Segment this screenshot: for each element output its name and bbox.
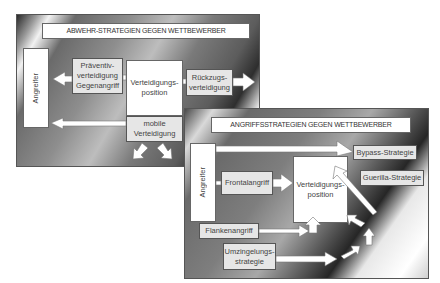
arrow-left-long-icon: [51, 118, 126, 129]
arrow-encircle-icon: [276, 252, 337, 266]
retreat-defense-box: Rückzugs- verteidigung: [186, 69, 233, 96]
arrow-down-left-icon: [133, 143, 148, 159]
arrow-chain-1-icon: [341, 246, 360, 259]
bypass-label: Bypass-Strategie: [356, 148, 413, 158]
defense-attacker-box: Angreifer: [23, 48, 49, 128]
preventive-line-3: Gegenangriff: [76, 81, 119, 91]
defense-title-text: ABWEHR-STRATEGIEN GEGEN WETTBEWERBER: [66, 26, 225, 36]
mobile-line-1: mobile: [143, 119, 165, 129]
attack-position-box: Verteidigungs- position: [293, 156, 348, 223]
arrow-bypass-icon: [216, 141, 353, 156]
arrow-chain-3-icon: [347, 215, 365, 227]
guerilla-strategy-box: Guerilla-Strategie: [360, 170, 424, 186]
defense-position-line-2: position: [142, 88, 168, 98]
attack-attacker-box: Angreifer: [190, 143, 216, 222]
defense-attacker-label: Angreifer: [31, 73, 41, 103]
guerilla-label: Guerilla-Strategie: [363, 173, 421, 183]
retreat-line-1: Rückzugs-: [192, 73, 227, 83]
mobile-defense-box: mobile Verteidigung: [126, 116, 183, 142]
encircle-line-2: strategie: [235, 257, 264, 267]
attack-title-text: ANGRIFFSSTRATEGIEN GEGEN WETTBEWERBER: [230, 120, 391, 130]
attack-position-line-2: position: [308, 190, 334, 200]
mobile-line-2: Verteidigung: [134, 129, 176, 139]
frontal-label: Frontalangriff: [225, 178, 269, 188]
preventive-line-2: verteidigung: [77, 71, 118, 81]
attack-title: ANGRIFFSSTRATEGIEN GEGEN WETTBEWERBER: [211, 117, 411, 133]
defense-title: ABWEHR-STRATEGIEN GEGEN WETTBEWERBER: [42, 23, 250, 39]
encircle-strategy-box: Umzingelungs- strategie: [223, 243, 276, 270]
defense-position-line-1: Verteidigungs-: [131, 78, 179, 88]
preventive-line-1: Präventiv-: [81, 61, 115, 71]
attack-attacker-label: Angreifer: [198, 167, 208, 197]
preventive-defense-box: Präventiv- verteidigung Gegenangriff: [72, 58, 123, 94]
arrow-left-icon: [53, 72, 72, 86]
arrow-chain-2-icon: [363, 228, 375, 245]
bypass-strategy-box: Bypass-Strategie: [353, 145, 417, 160]
arrow-flank-icon: [259, 225, 309, 237]
arrow-right-icon: [233, 73, 255, 91]
attack-position-line-1: Verteidigungs-: [297, 180, 345, 190]
arrow-frontal-icon: [273, 174, 293, 192]
encircle-line-1: Umzingelungs-: [224, 247, 274, 257]
attack-strategies-panel: ANGRIFFSSTRATEGIEN GEGEN WETTBEWERBER An…: [184, 108, 429, 279]
defense-position-box: Verteidigungs- position: [126, 60, 183, 116]
arrow-down-right-icon: [157, 143, 172, 159]
retreat-line-2: verteidigung: [189, 83, 230, 93]
flank-attack-box: Flankenangriff: [199, 223, 259, 239]
flank-label: Flankenangriff: [205, 226, 252, 236]
frontal-attack-box: Frontalangriff: [221, 171, 273, 195]
